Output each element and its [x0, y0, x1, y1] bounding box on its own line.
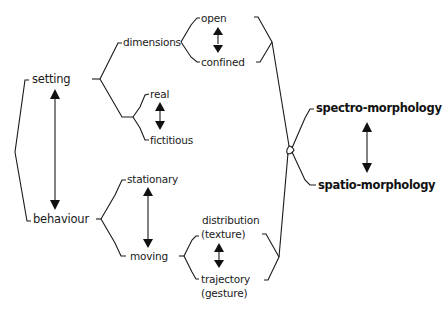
- node-texture: (texture): [201, 228, 245, 240]
- node-setting: setting: [32, 73, 70, 85]
- moving-to-distribution: [184, 236, 199, 256]
- dimensions-to-junction: [272, 42, 289, 146]
- node-distribution: distribution: [202, 214, 259, 226]
- reality-to-fictitious: [133, 117, 149, 140]
- dimensions-right-bracket: [254, 17, 272, 62]
- node-open: open: [201, 12, 226, 24]
- node-behaviour: behaviour: [33, 213, 89, 225]
- setting-to-reality: [100, 79, 133, 117]
- node-confined: confined: [201, 56, 245, 68]
- moving-to-junction: [279, 153, 288, 257]
- spatio-morphology-diagram: setting behaviour dimensions open confin…: [0, 0, 447, 313]
- junction-to-spatio: [292, 152, 316, 185]
- arrow-up-head: [50, 89, 60, 99]
- dimensions-to-confined: [181, 42, 200, 62]
- node-real: real: [150, 88, 169, 100]
- node-spectro-morphology: spectro-morphology: [316, 102, 442, 114]
- node-gesture: (gesture): [201, 287, 247, 299]
- behaviour-to-stationary: [101, 180, 126, 219]
- connector-lines: [0, 0, 447, 313]
- setting-to-dimensions: [100, 43, 122, 79]
- node-fictitious: fictitious: [150, 134, 193, 146]
- node-dimensions: dimensions: [123, 36, 181, 48]
- node-stationary: stationary: [127, 173, 178, 185]
- moving-to-trajectory: [184, 256, 199, 279]
- moving-right-bracket: [262, 234, 279, 280]
- node-moving: moving: [130, 250, 168, 262]
- arrow-down-head: [50, 200, 60, 210]
- reality-to-real: [133, 94, 149, 117]
- behaviour-to-moving: [101, 219, 126, 256]
- node-trajectory: trajectory: [201, 273, 250, 285]
- left-bracket: [15, 80, 31, 221]
- dimensions-to-open: [181, 18, 200, 42]
- node-spatio-morphology: spatio-morphology: [318, 179, 435, 191]
- junction-to-spectro: [292, 109, 314, 148]
